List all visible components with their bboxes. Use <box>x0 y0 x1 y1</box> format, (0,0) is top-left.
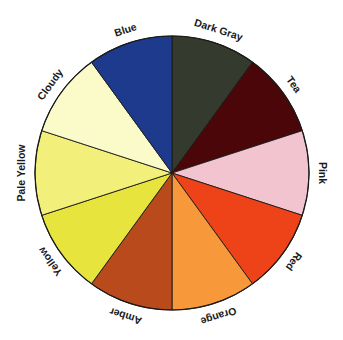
label-amber: Amber <box>108 306 143 328</box>
label-pink: Pink <box>317 162 329 184</box>
label-pale-yellow: Pale Yellow <box>15 144 27 202</box>
label-red: Red <box>283 250 304 273</box>
label-tea: Tea <box>284 74 304 95</box>
label-blue: Blue <box>113 20 139 38</box>
wheel-slices <box>35 36 309 310</box>
color-wheel: Dark GrayTeaPinkRedOrangeAmberYellowPale… <box>0 0 343 340</box>
label-orange: Orange <box>199 305 238 328</box>
color-wheel-diagram: Dark GrayTeaPinkRedOrangeAmberYellowPale… <box>0 0 343 340</box>
